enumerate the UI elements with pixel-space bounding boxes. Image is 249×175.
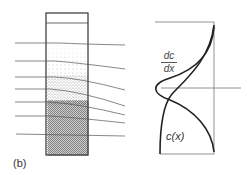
derivative-numerator: dc <box>161 51 177 63</box>
derivative-label: dc dx <box>161 51 177 74</box>
diagram-canvas <box>0 0 249 175</box>
concentration-label: c(x) <box>166 130 184 142</box>
derivative-denominator: dx <box>161 63 177 74</box>
derivative-curve <box>156 27 214 152</box>
figure-caption: (b) <box>13 157 26 169</box>
sediment-stipple <box>47 40 89 156</box>
